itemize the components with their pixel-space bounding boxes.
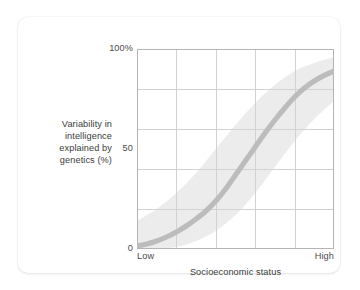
y-tick-label-100: 100%: [102, 43, 133, 53]
chart-svg: [137, 49, 334, 249]
x-tick-label-low: Low: [137, 251, 154, 261]
y-axis-title: Variability in intelligence explained by…: [24, 118, 112, 166]
y-tick-label-0: 0: [102, 243, 133, 253]
x-axis-title: Socioeconomic status: [137, 267, 334, 277]
x-tick-label-high: High: [315, 251, 334, 261]
plot-area: [137, 49, 334, 249]
y-tick-label-50: 50: [102, 143, 133, 153]
figure-card: Variability in intelligence explained by…: [18, 17, 340, 273]
